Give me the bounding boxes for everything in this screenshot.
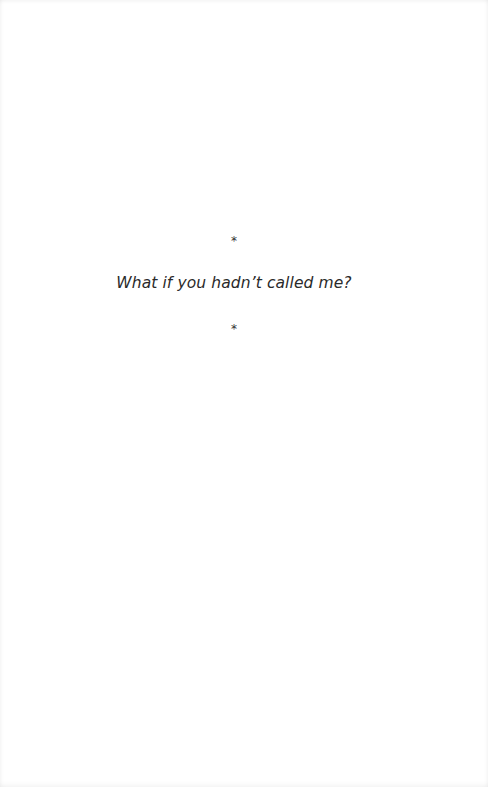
section-separator-top: * [0,234,478,248]
section-separator-bottom: * [0,322,478,336]
book-page: * What if you hadn’t called me? * [0,0,488,787]
italic-text-line: What if you hadn’t called me? [0,274,478,292]
